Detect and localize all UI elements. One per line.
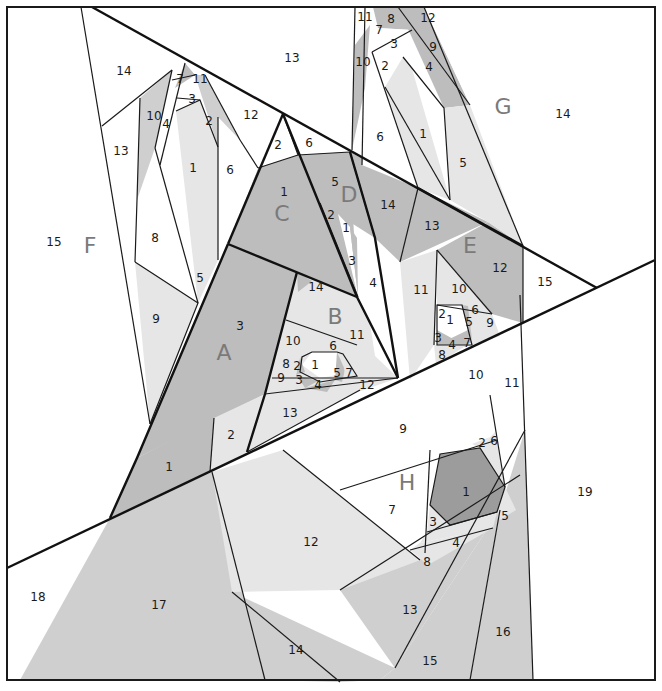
- section-letter-d: D: [341, 182, 358, 207]
- piece-number: 8: [438, 348, 446, 362]
- piece-number: 3: [348, 254, 356, 268]
- piece-number: 10: [451, 282, 466, 296]
- piece-number: 3: [429, 515, 437, 529]
- piece-number: 9: [152, 312, 160, 326]
- piece-number: 10: [468, 368, 483, 382]
- piece-number: 1: [280, 185, 288, 199]
- piece-number: 1: [419, 127, 427, 141]
- piece-number: 4: [369, 276, 377, 290]
- piece-number: 14: [288, 643, 303, 657]
- piece-number: 7: [463, 336, 471, 350]
- piece-number: 9: [277, 371, 285, 385]
- piece-number: 13: [284, 51, 299, 65]
- piece-number: 11: [504, 376, 519, 390]
- piece-number: 7: [375, 23, 383, 37]
- piece-number: 1: [446, 313, 454, 327]
- piece-number: 5: [459, 156, 467, 170]
- piece-number: 6: [329, 339, 337, 353]
- piece-number: 12: [420, 11, 435, 25]
- piece-number: 9: [429, 40, 437, 54]
- piece-number: 6: [376, 130, 384, 144]
- piece-number: 1: [311, 358, 319, 372]
- piece-number: 13: [424, 219, 439, 233]
- piece-number: 5: [196, 271, 204, 285]
- piece-number: 16: [495, 625, 510, 639]
- piece-number: 15: [46, 235, 61, 249]
- piece-number: 7: [388, 503, 396, 517]
- section-letter-g: G: [494, 94, 511, 119]
- piece-number: 14: [116, 64, 131, 78]
- section-letter-c: C: [274, 201, 289, 226]
- piece-number: 2: [327, 208, 335, 222]
- piece-number: 13: [282, 406, 297, 420]
- piece-number: 13: [402, 603, 417, 617]
- section-letter-a: A: [216, 340, 231, 365]
- piece-number: 11: [192, 72, 207, 86]
- piece-number: 4: [314, 378, 322, 392]
- piece-number: 2: [205, 114, 213, 128]
- piece-number: 10: [285, 334, 300, 348]
- piece-number: 6: [305, 136, 313, 150]
- piece-number: 1: [342, 221, 350, 235]
- piece-number: 10: [146, 109, 161, 123]
- piece-number: 2: [227, 428, 235, 442]
- piece-number: 2: [478, 436, 486, 450]
- piece-number: 5: [501, 509, 509, 523]
- piece-number: 5: [465, 315, 473, 329]
- piece-number: 11: [357, 10, 372, 24]
- piece-number: 14: [380, 198, 395, 212]
- piece-number: 2: [381, 59, 389, 73]
- piece-number: 18: [30, 590, 45, 604]
- piece-number: 3: [390, 37, 398, 51]
- section-letter-f: F: [84, 233, 97, 258]
- section-letter-b: B: [327, 304, 342, 329]
- piece-number: 4: [425, 60, 433, 74]
- piece-number: 8: [151, 231, 159, 245]
- piece-number: 10: [355, 55, 370, 69]
- piece-number: 1: [165, 460, 173, 474]
- piece-number: 13: [113, 144, 128, 158]
- piece-number: 11: [349, 328, 364, 342]
- piece-number: 9: [399, 422, 407, 436]
- piece-number: 2: [274, 138, 282, 152]
- piece-number: 15: [422, 654, 437, 668]
- piece-number: 8: [282, 357, 290, 371]
- piece-number: 3: [236, 319, 244, 333]
- piece-number: 9: [486, 316, 494, 330]
- piece-number: 3: [434, 331, 442, 345]
- piece-number: 3: [295, 373, 303, 387]
- piece-number: 12: [303, 535, 318, 549]
- piece-number: 15: [537, 275, 552, 289]
- piece-number: 14: [555, 107, 570, 121]
- piece-number: 1: [189, 161, 197, 175]
- piece-number: 8: [423, 555, 431, 569]
- section-letter-e: E: [463, 233, 477, 258]
- piece-number: 11: [413, 283, 428, 297]
- piece-number: 5: [333, 366, 341, 380]
- piece-number: 3: [188, 92, 196, 106]
- piece-number: 14: [308, 280, 323, 294]
- piece-number: 12: [359, 378, 374, 392]
- piece-number: 6: [490, 434, 498, 448]
- piece-number: 4: [448, 338, 456, 352]
- piece-number: 1: [462, 485, 470, 499]
- piece-number: 2: [438, 307, 446, 321]
- quilt-pattern-diagram: A B C D E F G H 14 13 15 7 11 3 10 4 2 1…: [0, 0, 662, 691]
- piece-number: 4: [452, 536, 460, 550]
- piece-number: 4: [162, 117, 170, 131]
- piece-number: 6: [226, 163, 234, 177]
- piece-number: 17: [151, 598, 166, 612]
- section-letter-h: H: [399, 470, 416, 495]
- piece-number: 2: [293, 359, 301, 373]
- piece-number: 7: [345, 366, 353, 380]
- piece-number: 12: [243, 108, 258, 122]
- piece-number: 5: [331, 175, 339, 189]
- piece-number: 19: [577, 485, 592, 499]
- piece-number: 12: [492, 261, 507, 275]
- piece-number: 8: [387, 12, 395, 26]
- piece-number: 7: [176, 72, 184, 86]
